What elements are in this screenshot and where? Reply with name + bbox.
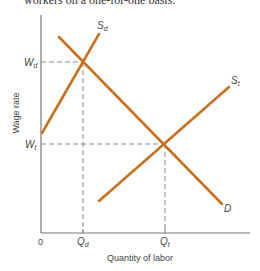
qd-label: Qd [77, 236, 90, 248]
wd-label: Wd [24, 57, 38, 69]
guide-lines [41, 62, 165, 233]
sd-label: Sd [97, 20, 109, 32]
origin-label: 0 [38, 237, 43, 247]
st-label: St [231, 75, 241, 87]
wt-label: Wt [25, 139, 37, 151]
qt-label: Qt [160, 236, 171, 248]
d-label: D [224, 203, 231, 214]
labor-market-chart: Sd St D Wd Wt 0 Qd Qt Quantity of labor … [0, 0, 260, 271]
y-axis-title: Wage rate [11, 92, 21, 133]
x-axis-title: Quantity of labor [107, 253, 173, 263]
